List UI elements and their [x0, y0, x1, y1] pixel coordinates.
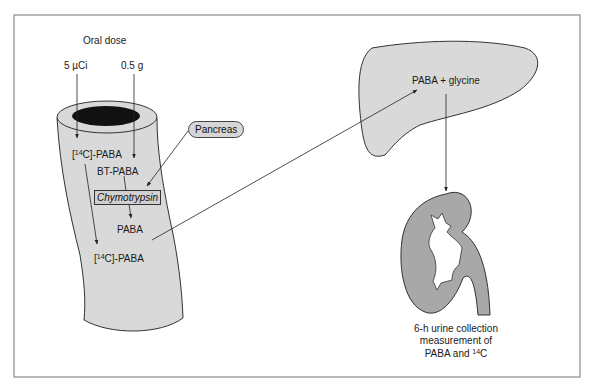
- chymotrypsin-box: Chymotrypsin: [94, 190, 161, 205]
- kidney-caption-line3-tail: C: [480, 348, 487, 359]
- arrow-paba-to-liver: [152, 90, 417, 240]
- dose-5uci-label: 5 µCi: [64, 60, 88, 72]
- kidney-caption-line1: 6-h urine collection: [400, 323, 512, 335]
- c14-paba-bottom-sup: 14: [97, 253, 105, 260]
- c14-paba-top-text: C]-PABA: [83, 149, 122, 160]
- paba-label: PABA: [117, 224, 143, 236]
- gut-lumen: [72, 106, 140, 126]
- liver-shape: [359, 41, 538, 156]
- c14-paba-bottom-text: C]-PABA: [105, 253, 144, 264]
- c14-paba-top-label: [14C]-PABA: [72, 149, 122, 161]
- oral-dose-label: Oral dose: [83, 35, 126, 47]
- bt-paba-label: BT-PABA: [97, 166, 139, 178]
- pancreas-label: Pancreas: [188, 121, 244, 138]
- dose-05g-label: 0.5 g: [121, 60, 143, 72]
- kidney-caption-line3: PABA and 14C: [400, 348, 512, 360]
- kidney-caption-line3-sup: 14: [472, 348, 480, 355]
- kidney-caption-line3-text: PABA and: [425, 348, 473, 359]
- c14-paba-top-sup: 14: [75, 149, 83, 156]
- kidney-caption-line2: measurement of: [400, 335, 512, 347]
- c14-paba-bottom-label: [14C]-PABA: [94, 253, 144, 265]
- liver-label: PABA + glycine: [412, 75, 480, 87]
